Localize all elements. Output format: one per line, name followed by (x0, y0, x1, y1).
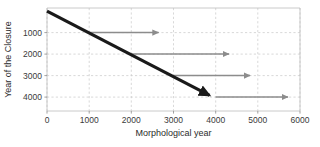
x-tick-label: 1000 (80, 115, 99, 125)
y-tick-label: 4000 (23, 92, 42, 102)
x-tick-label: 3000 (164, 115, 183, 125)
x-tick-label: 2000 (122, 115, 141, 125)
y-tick-label: 1000 (23, 28, 42, 38)
x-tick-label: 4000 (206, 115, 225, 125)
y-tick-label: 3000 (23, 71, 42, 81)
x-axis-title: Morphological year (135, 128, 211, 138)
chart-figure: 0 1000 2000 3000 4000 5000 6000 1000 200… (0, 0, 320, 147)
x-tick-label: 6000 (291, 115, 310, 125)
x-tick-labels: 0 1000 2000 3000 4000 5000 6000 (45, 115, 310, 125)
y-tick-label: 2000 (23, 49, 42, 59)
x-tick-label: 0 (45, 115, 50, 125)
chart-canvas: 0 1000 2000 3000 4000 5000 6000 1000 200… (0, 0, 320, 147)
plot-area-background (47, 8, 300, 111)
x-tick-label: 5000 (248, 115, 267, 125)
y-axis-title: Year of the Closure (3, 21, 13, 98)
y-tick-labels: 1000 2000 3000 4000 (23, 28, 42, 103)
